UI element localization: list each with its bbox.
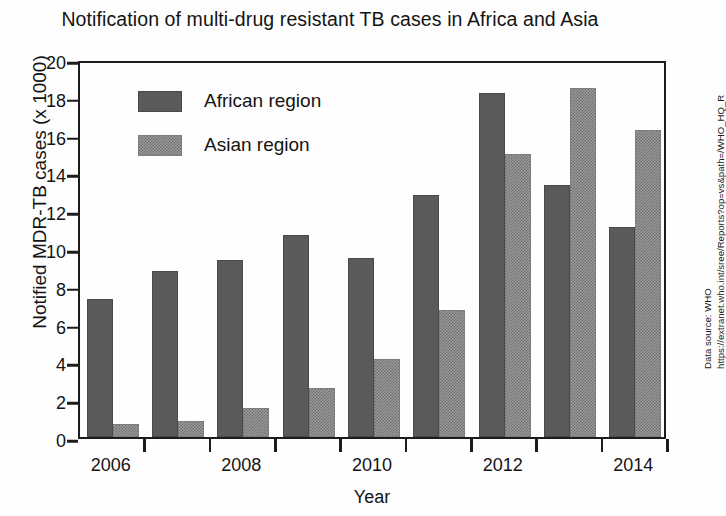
bar-asian-2006 <box>113 424 139 437</box>
legend-item-asian: Asian region <box>138 134 321 156</box>
y-tick-label-0: 0 <box>4 431 66 452</box>
x-tick-label-2012: 2012 <box>483 455 523 476</box>
x-tick-mark-2014 <box>666 439 669 452</box>
legend-label-asian: Asian region <box>204 134 310 156</box>
y-tick-mark-12 <box>67 213 78 216</box>
y-tick-mark-16 <box>67 137 78 140</box>
chart-title: Notification of multi-drug resistant TB … <box>0 8 660 31</box>
bar-african-2012 <box>479 93 505 437</box>
x-tick-mark-2011 <box>470 439 473 452</box>
y-tick-mark-14 <box>67 175 78 178</box>
x-tick-mark-2010 <box>405 439 408 452</box>
x-tick-label-2008: 2008 <box>221 455 261 476</box>
legend-swatch-african-icon <box>138 91 182 112</box>
x-tick-mark-2006 <box>143 439 146 452</box>
y-axis: 02468101214161820 Notified MDR-TB cases … <box>0 61 78 441</box>
y-tick-mark-10 <box>67 251 78 254</box>
y-tick-mark-6 <box>67 326 78 329</box>
y-tick-label-2: 2 <box>4 393 66 414</box>
bar-chart: Notification of multi-drug resistant TB … <box>0 0 726 516</box>
x-axis-label: Year <box>78 487 666 508</box>
bar-african-2013 <box>544 185 570 437</box>
y-tick-mark-20 <box>67 62 78 65</box>
bar-african-2011 <box>413 195 439 437</box>
x-tick-mark-2012 <box>535 439 538 452</box>
y-axis-label: Notified MDR-TB cases (x 1000) <box>29 12 51 372</box>
bar-asian-2013 <box>570 88 596 437</box>
bar-african-2009 <box>283 235 309 437</box>
bar-african-2006 <box>87 299 113 437</box>
x-axis: 20062008201020122014 Year <box>78 439 666 515</box>
y-tick-mark-0 <box>67 440 78 443</box>
bar-african-2014 <box>609 227 635 437</box>
bar-asian-2008 <box>243 408 269 437</box>
y-tick-mark-4 <box>67 364 78 367</box>
legend-item-african: African region <box>138 90 321 112</box>
bar-asian-2007 <box>178 421 204 437</box>
y-tick-mark-18 <box>67 100 78 103</box>
x-tick-mark-2013 <box>601 439 604 452</box>
x-tick-label-2010: 2010 <box>352 455 392 476</box>
x-tick-mark-2009 <box>339 439 342 452</box>
y-tick-mark-2 <box>67 402 78 405</box>
bar-african-2007 <box>152 271 178 437</box>
bar-asian-2009 <box>309 388 335 437</box>
bar-african-2008 <box>217 260 243 437</box>
bar-asian-2014 <box>635 130 661 437</box>
source-note: Data source: WHO https://extranet.who.in… <box>702 79 726 369</box>
x-tick-label-2006: 2006 <box>91 455 131 476</box>
bar-asian-2010 <box>374 359 400 437</box>
x-tick-mark-2007 <box>209 439 212 452</box>
x-tick-label-2014: 2014 <box>613 455 653 476</box>
bar-african-2010 <box>348 258 374 437</box>
chart-legend: African region Asian region <box>138 90 321 178</box>
x-tick-mark-2008 <box>274 439 277 452</box>
bar-asian-2011 <box>439 310 465 437</box>
legend-swatch-asian-icon <box>138 135 182 156</box>
y-tick-mark-8 <box>67 289 78 292</box>
source-note-line-2: https://extranet.who.int/sree/Reports?op… <box>715 79 726 369</box>
legend-label-african: African region <box>204 90 321 112</box>
bar-asian-2012 <box>505 154 531 438</box>
source-note-line-1: Data source: WHO <box>702 79 715 369</box>
